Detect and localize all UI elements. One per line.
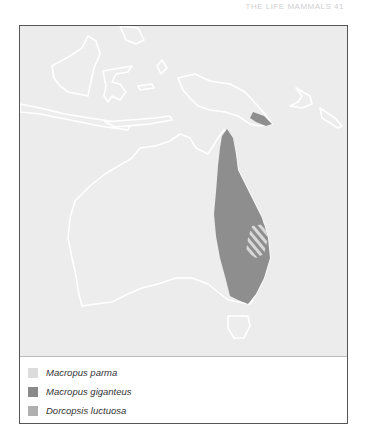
legend-item: Dorcopsis luctuosa [20, 401, 347, 420]
legend-item: Macropus parma [20, 363, 347, 382]
legend-swatch-dorcopsis-luctuosa [28, 406, 38, 416]
map-area [20, 26, 347, 357]
running-head: THE LIFE MAMMALS 41 [246, 2, 344, 11]
legend-label: Macropus giganteus [46, 386, 132, 397]
range-map [20, 26, 347, 356]
legend-swatch-macropus-parma [28, 368, 38, 378]
legend-item: Macropus giganteus [20, 382, 347, 401]
map-legend: Macropus parma Macropus giganteus Dorcop… [20, 357, 347, 429]
legend-label: Macropus parma [46, 367, 117, 378]
legend-label: Dorcopsis luctuosa [46, 405, 126, 416]
legend-swatch-macropus-giganteus [28, 387, 38, 397]
map-figure: Macropus parma Macropus giganteus Dorcop… [19, 25, 348, 424]
